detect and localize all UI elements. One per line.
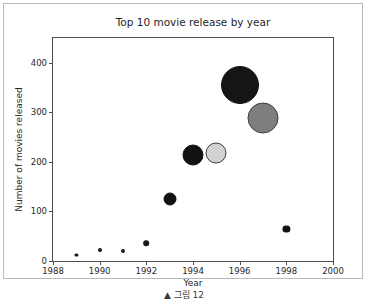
- scatter-point: [221, 66, 259, 104]
- scatter-point: [183, 145, 204, 166]
- x-tick-mark: [240, 261, 241, 265]
- x-axis-label: Year: [52, 278, 334, 288]
- scatter-point: [75, 253, 78, 256]
- x-tick-mark: [100, 261, 101, 265]
- x-tick-label: 1994: [182, 266, 204, 276]
- x-tick-mark: [333, 261, 334, 265]
- scatter-point: [144, 240, 150, 246]
- scatter-point: [121, 249, 125, 253]
- plot-area: 0100200300400 19881990199219941996199820…: [52, 37, 334, 262]
- x-tick-label: 1996: [229, 266, 251, 276]
- scatter-point: [206, 142, 227, 163]
- scatter-point: [163, 193, 176, 206]
- x-tick-mark: [193, 261, 194, 265]
- x-tick-label: 1990: [89, 266, 111, 276]
- scatter-series: [53, 38, 333, 261]
- y-tick-label: 400: [31, 58, 47, 68]
- figure-frame: Top 10 movie release by year Number of m…: [3, 3, 363, 279]
- y-axis-label: Number of movies released: [13, 37, 26, 262]
- scatter-point: [98, 248, 102, 252]
- figure-caption: ▲ 그림 12: [0, 288, 368, 300]
- x-tick-label: 2000: [322, 266, 344, 276]
- x-tick-label: 1998: [276, 266, 298, 276]
- scatter-point: [283, 226, 290, 233]
- y-tick-label: 300: [31, 107, 47, 117]
- x-tick-mark: [286, 261, 287, 265]
- y-tick-label: 200: [31, 157, 47, 167]
- scatter-point: [248, 103, 279, 134]
- chart-title: Top 10 movie release by year: [52, 16, 334, 28]
- x-tick-label: 1992: [136, 266, 158, 276]
- x-tick-label: 1988: [42, 266, 64, 276]
- y-tick-label: 0: [42, 256, 47, 266]
- x-tick-mark: [146, 261, 147, 265]
- x-tick-mark: [53, 261, 54, 265]
- y-tick-label: 100: [31, 206, 47, 216]
